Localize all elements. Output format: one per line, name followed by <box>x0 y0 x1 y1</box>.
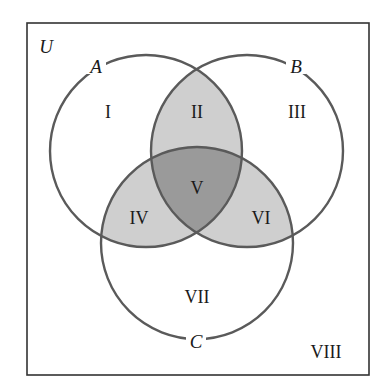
set-c-label: C <box>190 331 203 352</box>
region-viii-label: VIII <box>311 342 342 362</box>
universe-label: U <box>39 36 54 57</box>
region-iv-label: IV <box>130 208 149 228</box>
region-v-label: V <box>191 178 204 198</box>
region-vii-label: VII <box>185 287 210 307</box>
venn-diagram: U A B C I II III IV V VI VII VIII <box>0 0 391 392</box>
region-ii-label: II <box>191 102 203 122</box>
region-vi-label: VI <box>252 208 271 228</box>
region-i-label: I <box>105 102 111 122</box>
set-a-label: A <box>88 56 102 77</box>
set-b-label: B <box>290 56 302 77</box>
region-iii-label: III <box>288 102 306 122</box>
